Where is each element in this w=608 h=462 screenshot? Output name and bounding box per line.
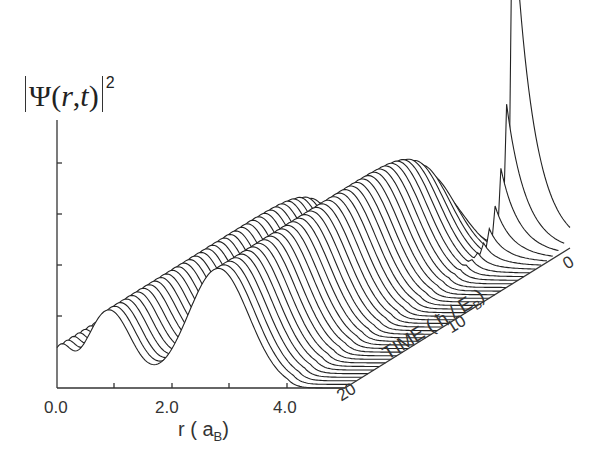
- x-tick-label: 2.0: [155, 398, 179, 418]
- x-axis-label: r ( aB): [178, 418, 229, 444]
- x-tick-label: 4.0: [273, 398, 297, 418]
- y-ticks: [57, 163, 62, 316]
- y-axis-label: Ψ(r,t)2: [22, 74, 115, 113]
- time-slices: [57, 0, 570, 388]
- x-tick-label: 0.0: [44, 398, 68, 418]
- waterfall-chart: [0, 0, 608, 462]
